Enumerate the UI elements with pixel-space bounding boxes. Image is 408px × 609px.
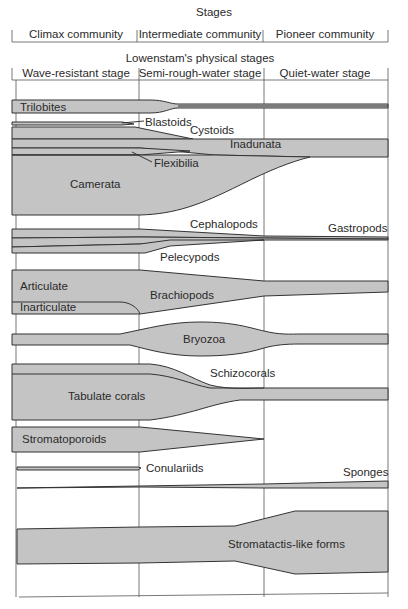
stage-semi-rough-water: Semi-rough-water stage: [139, 67, 262, 79]
band-brachiopods: Articulate Inarticulate Brachiopods: [12, 270, 388, 314]
label-schizocorals: Schizocorals: [210, 367, 275, 379]
stage-intermediate: Intermediate community: [139, 28, 262, 40]
band-trilobites: Trilobites: [12, 100, 388, 113]
label-tabulate-corals: Tabulate corals: [68, 390, 146, 402]
label-flexibilia: Flexibilia: [154, 157, 199, 169]
label-blastoids: Blastoids: [145, 116, 192, 128]
label-conulariids: Conulariids: [146, 462, 204, 474]
label-cephalopods: Cephalopods: [190, 218, 258, 230]
band-molluscs: Cephalopods Gastropods Pelecypods: [12, 218, 388, 263]
label-brachiopods: Brachiopods: [150, 289, 214, 301]
stages-title: Stages: [196, 6, 232, 18]
stages-header: Stages Climax community Intermediate com…: [12, 6, 388, 42]
stage-climax: Climax community: [29, 28, 123, 40]
band-echinoderms: Blastoids Cystoids Inadunata Flexibilia …: [12, 116, 388, 215]
label-stromatactis: Stromatactis-like forms: [228, 538, 345, 550]
band-corals: Schizocorals Tabulate corals: [12, 364, 388, 420]
bottom-border: [19, 593, 388, 597]
physical-stages-header: Lowenstam's physical stages Wave-resista…: [12, 52, 388, 80]
label-gastropods: Gastropods: [328, 222, 388, 234]
physical-stages-title: Lowenstam's physical stages: [126, 52, 275, 64]
label-inarticulate: Inarticulate: [20, 301, 76, 313]
stage-quiet-water: Quiet-water stage: [280, 67, 371, 79]
band-bryozoa: Bryozoa: [12, 322, 388, 356]
label-sponges: Sponges: [343, 466, 389, 478]
label-stromatoporoids: Stromatoporoids: [22, 433, 107, 445]
band-conulariids: Conulariids: [17, 462, 204, 474]
label-trilobites: Trilobites: [20, 101, 66, 113]
stage-pioneer: Pioneer community: [276, 28, 375, 40]
label-inadunata: Inadunata: [230, 138, 282, 150]
label-bryozoa: Bryozoa: [183, 333, 226, 345]
label-cystoids: Cystoids: [190, 124, 234, 136]
label-camerata: Camerata: [70, 178, 121, 190]
band-stromatactis: Stromatactis-like forms: [17, 511, 388, 574]
label-pelecypods: Pelecypods: [160, 251, 220, 263]
band-stromatoporoids: Stromatoporoids: [12, 427, 264, 452]
label-articulate: Articulate: [20, 280, 68, 292]
stage-wave-resistant: Wave-resistant stage: [22, 67, 130, 79]
community-succession-diagram: Stages Climax community Intermediate com…: [0, 0, 408, 609]
